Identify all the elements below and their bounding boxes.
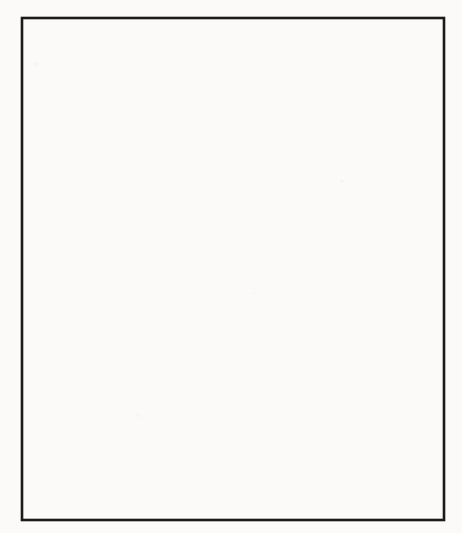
diagram-ink-layer [0, 0, 462, 533]
figure-root [0, 0, 462, 533]
figure-frame [22, 18, 444, 520]
